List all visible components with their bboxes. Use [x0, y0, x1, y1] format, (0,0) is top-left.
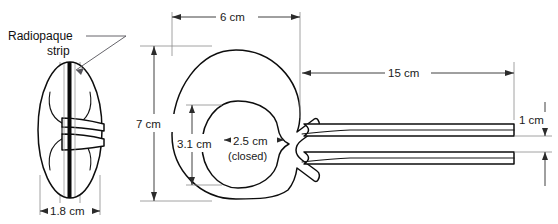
dimension-overall-width: 6 cm	[220, 11, 245, 23]
arrow-15cm-left	[302, 70, 311, 76]
dimension-inner-width-note: (closed)	[228, 150, 267, 162]
arrow-1-8-right	[92, 208, 100, 214]
dimension-inner-width: 2.5 cm	[233, 135, 268, 147]
arrow-15cm-right	[505, 70, 514, 76]
front-plan-view: 6 cm 7 cm 3.1 cm 2.5 cm (closed)	[133, 9, 552, 201]
dimension-inner-height: 3.1 cm	[177, 138, 212, 150]
radiopaque-label-line1: Radiopaque	[8, 29, 73, 43]
diagram-canvas: Radiopaque strip 1.8 cm	[0, 0, 558, 224]
device-dimension-diagram: Radiopaque strip 1.8 cm	[0, 0, 558, 224]
radiopaque-label-line2: strip	[47, 44, 70, 58]
dimension-tube-gap: 1 cm	[519, 114, 544, 126]
dimension-overall-height: 7 cm	[136, 118, 161, 130]
arrow-7cm-top	[151, 46, 157, 55]
radiopaque-strip	[68, 62, 72, 198]
arrow-7cm-bottom	[151, 192, 157, 201]
arrow-1cm-top	[542, 128, 548, 136]
arrow-1-8-left	[40, 208, 48, 214]
side-profile-view: Radiopaque strip 1.8 cm	[8, 29, 126, 219]
arrow-6cm-left	[172, 14, 181, 20]
dimension-side-width: 1.8 cm	[50, 205, 85, 217]
arrow-6cm-right	[291, 14, 300, 20]
radiopaque-leader-diagonal	[76, 36, 126, 70]
dimension-tube-length: 15 cm	[388, 67, 419, 79]
arrow-1cm-bottom	[542, 152, 548, 160]
